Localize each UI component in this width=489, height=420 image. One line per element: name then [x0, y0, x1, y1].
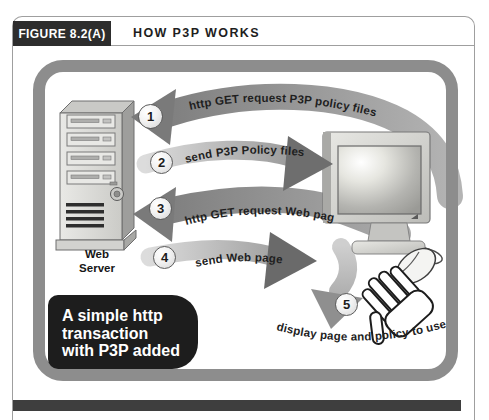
drive-bay: [67, 115, 115, 128]
step-circle-5: 5: [335, 293, 358, 316]
web-server-label: Web Server: [58, 248, 136, 275]
step-circle-1: 1: [138, 104, 163, 129]
web-server-label-line2: Server: [58, 262, 136, 276]
caption-line-3: with P3P added: [62, 342, 192, 360]
web-server-illustration: [56, 101, 136, 250]
step-circle-2: 2: [150, 151, 173, 174]
caption-line-1: A simple http: [62, 307, 192, 325]
monitor-illustration: [323, 132, 430, 254]
caption-box: A simple http transaction with P3P added: [48, 295, 198, 369]
figure-label: FIGURE 8.2(A): [13, 21, 111, 46]
caption-line-2: transaction: [62, 325, 192, 343]
step-circle-3: 3: [149, 197, 172, 220]
power-led: [110, 182, 117, 185]
step-circle-4: 4: [153, 246, 176, 269]
figure-title: HOW P3P WORKS: [133, 21, 260, 46]
web-server-label-line1: Web: [58, 248, 136, 262]
arrow-step-5: [311, 247, 363, 329]
drive-bay: [67, 171, 115, 184]
monitor-screen: [338, 146, 421, 214]
figure-page: FIGURE 8.2(A) HOW P3P WORKS: [0, 0, 489, 420]
bottom-divider-bar: [13, 400, 461, 411]
drive-bay: [67, 133, 115, 146]
drive-bay: [67, 152, 115, 165]
